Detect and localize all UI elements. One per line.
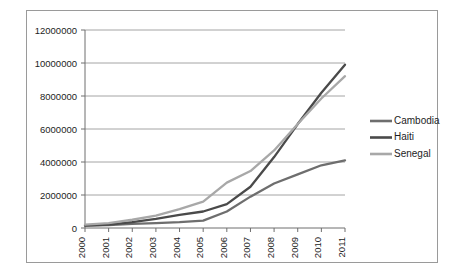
line-chart: 0200000040000006000000800000010000000120… bbox=[0, 0, 467, 276]
chart-legend: CambodiaHaitiSenegal bbox=[370, 115, 440, 159]
y-axis-tick-label: 8000000 bbox=[40, 91, 77, 102]
x-axis-tick-label: 2001 bbox=[100, 237, 111, 258]
legend-label-haiti: Haiti bbox=[394, 131, 414, 142]
x-axis-tick-label: 2003 bbox=[147, 237, 158, 258]
x-axis-tick-label: 2009 bbox=[289, 237, 300, 258]
y-axis-tick-label: 0 bbox=[72, 223, 77, 234]
series-line-haiti bbox=[85, 65, 345, 226]
x-axis-tick-label: 2011 bbox=[336, 237, 347, 257]
x-axis-tick-label: 2008 bbox=[265, 237, 276, 258]
x-tickmarks-group bbox=[85, 228, 345, 232]
x-axis-tick-label: 2010 bbox=[312, 237, 323, 258]
y-axis-tick-label: 12000000 bbox=[35, 25, 77, 36]
x-axis-labels-group: 2000200120022003200420052006200720082009… bbox=[76, 237, 347, 258]
legend-label-senegal: Senegal bbox=[394, 148, 431, 159]
x-axis-tick-label: 2006 bbox=[218, 237, 229, 258]
y-axis-tick-label: 2000000 bbox=[40, 190, 77, 201]
x-axis-tick-label: 2000 bbox=[76, 237, 87, 258]
chart-figure: 0200000040000006000000800000010000000120… bbox=[0, 0, 467, 276]
data-series-group bbox=[85, 65, 345, 226]
x-axis-tick-label: 2004 bbox=[171, 237, 182, 258]
series-line-senegal bbox=[85, 76, 345, 225]
y-axis-tick-label: 10000000 bbox=[35, 58, 77, 69]
y-tickmarks-group bbox=[81, 30, 85, 228]
x-axis-tick-label: 2002 bbox=[123, 237, 134, 258]
y-axis-tick-label: 4000000 bbox=[40, 157, 77, 168]
x-axis-tick-label: 2007 bbox=[241, 237, 252, 258]
y-axis-tick-label: 6000000 bbox=[40, 124, 77, 135]
y-axis-labels-group: 0200000040000006000000800000010000000120… bbox=[35, 25, 77, 234]
x-axis-tick-label: 2005 bbox=[194, 237, 205, 258]
legend-label-cambodia: Cambodia bbox=[394, 115, 440, 126]
